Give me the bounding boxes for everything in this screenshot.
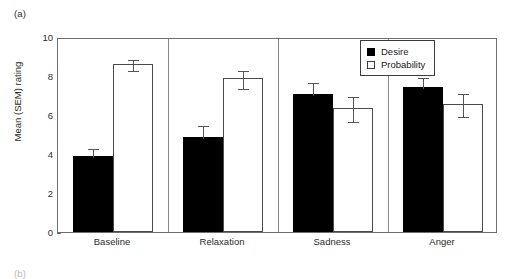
error-bar-stem (313, 83, 314, 96)
legend-item-probability: Probability (367, 58, 425, 71)
error-bar-probability-baseline (113, 60, 153, 72)
filled-square-icon (367, 48, 375, 56)
error-bar-desire-relaxation (183, 126, 223, 139)
y-tick-label: 10 (42, 33, 53, 43)
bar-desire-sadness (293, 94, 333, 232)
error-bar-stem (463, 94, 464, 118)
open-square-icon (367, 61, 375, 69)
y-tick-label: 2 (48, 189, 53, 199)
bar-probability-anger (443, 104, 483, 232)
bar-group (58, 39, 168, 232)
y-tick-mark (57, 233, 61, 234)
chart-legend: DesireProbability (360, 40, 435, 76)
error-bar-cap-bottom (348, 122, 359, 123)
error-bar-probability-sadness (333, 97, 373, 123)
error-bar-stem (203, 126, 204, 139)
legend-label: Desire (381, 47, 408, 57)
error-bar-stem (353, 97, 354, 123)
error-bar-stem (423, 78, 424, 89)
error-bar-cap-top (238, 71, 249, 72)
error-bar-desire-anger (403, 78, 443, 89)
y-axis-title: Mean (SEM) rating (12, 17, 23, 187)
error-bar-desire-baseline (73, 149, 113, 157)
y-tick-label: 8 (48, 72, 53, 82)
bar-probability-baseline (113, 64, 153, 232)
bar-probability-relaxation (223, 78, 263, 232)
error-bar-cap-top (88, 149, 99, 150)
error-bar-cap-bottom (128, 71, 139, 72)
error-bar-probability-relaxation (223, 71, 263, 90)
group-separator (168, 39, 169, 232)
y-axis-tick-labels: 0246810 (36, 38, 53, 233)
error-bar-stem (243, 71, 244, 90)
x-tick-label-sadness: Sadness (314, 236, 351, 247)
error-bar-cap-bottom (238, 89, 249, 90)
x-tick-label-anger: Anger (429, 236, 454, 247)
error-bar-cap-top (348, 97, 359, 98)
error-bar-cap-top (458, 94, 469, 95)
x-axis-tick-labels: BaselineRelaxationSadnessAnger (57, 236, 497, 252)
error-bar-cap-top (418, 78, 429, 79)
y-tick-label: 6 (48, 111, 53, 121)
x-tick-label-baseline: Baseline (94, 236, 130, 247)
legend-label: Probability (381, 60, 425, 70)
error-bar-probability-anger (443, 94, 483, 118)
error-bar-cap-top (308, 83, 319, 84)
legend-item-desire: Desire (367, 45, 425, 58)
error-bar-cap-top (128, 60, 139, 61)
x-tick-label-relaxation: Relaxation (200, 236, 245, 247)
panel-label-b: (b) (14, 268, 26, 279)
y-tick-label: 4 (48, 150, 53, 160)
bar-probability-sadness (333, 108, 373, 232)
bar-desire-relaxation (183, 137, 223, 232)
group-separator (278, 39, 279, 232)
bar-group (168, 39, 278, 232)
error-bar-desire-sadness (293, 83, 333, 96)
bar-desire-anger (403, 87, 443, 232)
error-bar-cap-bottom (458, 117, 469, 118)
bar-desire-baseline (73, 156, 113, 232)
error-bar-stem (93, 149, 94, 157)
error-bar-cap-top (198, 126, 209, 127)
y-tick-label: 0 (48, 228, 53, 238)
